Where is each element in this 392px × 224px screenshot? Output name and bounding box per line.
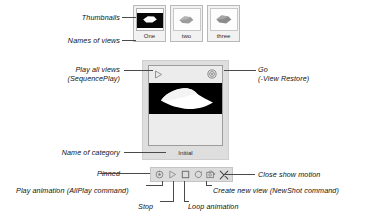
leader-play-animation-h xyxy=(146,185,163,186)
annotation-go-line1: Go xyxy=(258,65,268,74)
thumbnail-label-one: One xyxy=(144,32,155,40)
showmotion-annotated-figure: One two three xyxy=(0,0,392,224)
annotation-loop-animation: Loop animation xyxy=(188,202,239,211)
play-outline-icon[interactable] xyxy=(154,70,163,79)
shot-preview-frame xyxy=(148,65,223,146)
surface-mesh-graphic xyxy=(149,83,222,114)
stop-square-icon[interactable] xyxy=(179,168,191,181)
leader-loop-v xyxy=(184,181,185,202)
annotation-play-all-views-line2: (SequencePlay) xyxy=(22,74,120,83)
leader-new-view-v xyxy=(206,181,207,186)
annotation-name-of-category: Name of category xyxy=(18,148,120,157)
annotation-play-all-views-line1: Play all views xyxy=(22,65,120,74)
leader-close-show-motion xyxy=(224,174,255,175)
view-thumbnail-selected-icon[interactable] xyxy=(136,8,164,31)
play-icon[interactable] xyxy=(166,168,178,181)
leader-name-of-category xyxy=(124,152,166,153)
annotation-play-animation: Play animation (AllPlay command) xyxy=(16,186,129,195)
annotation-close-show-motion: Close show motion xyxy=(258,170,320,179)
shot-blob-icon xyxy=(142,15,158,24)
leader-go xyxy=(224,70,256,71)
thumbnail-label-three: three xyxy=(217,32,231,40)
go-target-icon[interactable] xyxy=(207,69,217,79)
view-thumbnail-icon-three[interactable] xyxy=(210,8,238,31)
shot-blob-icon xyxy=(215,14,233,25)
leader-thumbnails xyxy=(122,17,136,18)
view-thumbnail-icon-two[interactable] xyxy=(173,8,201,31)
thumbnail-label-two: two xyxy=(182,32,191,40)
loop-arrow-icon[interactable] xyxy=(192,168,204,181)
leader-names-of-views xyxy=(122,40,136,41)
leader-stop-h xyxy=(160,201,174,202)
thumbnail-card-two[interactable]: two xyxy=(170,5,203,42)
showmotion-toolbar xyxy=(150,167,233,182)
shot-preview-image[interactable] xyxy=(149,83,222,114)
annotation-thumbnails: Thumbnails xyxy=(30,13,120,22)
annotation-names-of-views: Names of views xyxy=(20,36,120,45)
panel-empty-area xyxy=(149,114,222,145)
thumbnail-card-three[interactable]: three xyxy=(207,5,240,42)
pin-icon[interactable] xyxy=(153,168,165,181)
leader-stop-v xyxy=(173,181,174,202)
leader-play-all-views xyxy=(124,70,153,71)
annotation-create-new-view: Create new view (NewShot command) xyxy=(213,186,339,195)
new-shot-camera-icon[interactable] xyxy=(205,168,217,181)
annotation-stop: Stop xyxy=(138,202,153,211)
showmotion-panel: Initial xyxy=(142,60,229,160)
leader-play-animation-v xyxy=(162,181,163,186)
annotation-go-line2: (-View Restore) xyxy=(258,74,309,83)
leader-pinned xyxy=(100,173,150,174)
thumbnail-strip: One two three xyxy=(133,5,240,42)
category-name-label: Initial xyxy=(143,148,228,157)
shot-blob-icon xyxy=(178,15,195,25)
thumbnail-card-one[interactable]: One xyxy=(133,5,166,42)
panel-toolbar-row xyxy=(149,66,222,83)
